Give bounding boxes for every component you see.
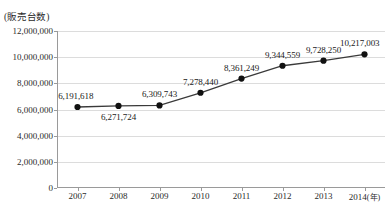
x-axis-tick-label: 2008 [110,191,128,201]
line-chart: (販売台数) 02,000,0004,000,0006,000,0008,000… [0,0,392,216]
y-axis-unit-label: (販売台数) [4,9,49,23]
data-point-marker[interactable] [115,103,121,109]
x-axis-tick-label-text: 2014 [349,192,367,202]
data-point-label: 10,217,003 [340,38,380,48]
data-point-marker[interactable] [238,76,244,82]
cutoff-caption-strip [0,208,392,216]
data-point-label: 7,278,440 [183,77,218,87]
x-axis-tick-label: 2011 [233,191,251,201]
y-axis-tick-label: 2,000,000 [0,157,53,167]
data-point-marker[interactable] [197,90,203,96]
data-point-marker[interactable] [361,51,367,57]
y-axis-tick-mark [54,31,57,32]
data-point-marker[interactable] [279,63,285,69]
data-point-label: 9,344,559 [265,50,300,60]
y-axis-tick-mark [54,162,57,163]
x-axis-tick-label: 2014(年) [349,191,380,202]
x-axis-tick-mark [324,187,325,191]
y-axis-tick-label: 4,000,000 [0,131,53,141]
x-axis-tick-mark [283,187,284,191]
data-point-marker[interactable] [74,104,80,110]
x-axis-tick-mark [201,187,202,191]
data-point-label: 6,309,743 [142,89,177,99]
x-axis-tick-label: 2012 [274,191,292,201]
y-axis-tick-label: 8,000,000 [0,78,53,88]
y-axis-tick-mark [54,136,57,137]
x-axis-tick-mark [119,187,120,191]
x-axis-tick-mark [160,187,161,191]
data-point-label: 9,728,250 [306,45,341,55]
y-axis-tick-label: 0 [0,183,53,193]
data-point-label: 6,191,618 [58,91,93,101]
x-axis-unit-label: (年) [367,193,380,202]
data-point-marker[interactable] [156,102,162,108]
cutoff-title-strip [0,0,392,5]
data-point-marker[interactable] [320,58,326,64]
x-axis-tick-label: 2007 [69,191,87,201]
x-axis-tick-label: 2009 [151,191,169,201]
x-axis-tick-mark [242,187,243,191]
y-axis-tick-label: 10,000,000 [0,52,53,62]
y-axis-tick-mark [54,83,57,84]
x-axis-tick-mark [78,187,79,191]
x-axis-tick-label: 2013 [315,191,333,201]
data-point-label: 6,271,724 [101,112,136,122]
y-axis-tick-label: 12,000,000 [0,26,53,36]
y-axis-tick-label: 6,000,000 [0,105,53,115]
data-point-label: 8,361,249 [224,63,259,73]
y-axis-tick-mark [54,57,57,58]
x-axis-tick-label: 2010 [192,191,210,201]
y-axis-tick-mark [54,110,57,111]
x-axis-tick-mark [365,187,366,191]
y-axis-tick-mark [54,188,57,189]
